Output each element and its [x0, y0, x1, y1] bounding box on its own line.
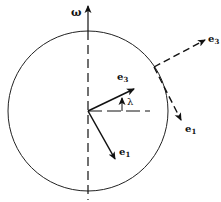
earth-frame-diagram: ω e3 λ e1 e3 e1 — [0, 0, 221, 202]
e1-inner-arrow — [88, 111, 115, 159]
e1-inner-label: e1 — [119, 146, 130, 159]
omega-label: ω — [71, 6, 82, 19]
e3-outer-arrow — [154, 40, 205, 67]
e3-outer-label: e3 — [208, 33, 219, 46]
diagram-canvas: ω e3 λ e1 e3 e1 — [0, 0, 221, 202]
lambda-label: λ — [127, 96, 134, 107]
e3-inner-label: e3 — [117, 71, 128, 84]
e1-outer-label: e1 — [185, 123, 196, 136]
